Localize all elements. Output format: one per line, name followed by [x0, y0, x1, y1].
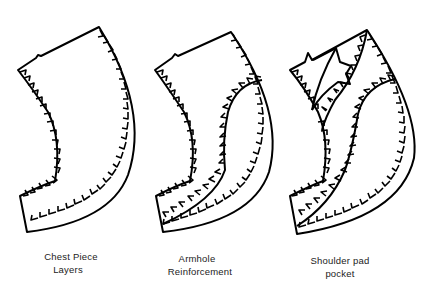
- shoulder-pad-label-line2: pocket: [302, 267, 378, 280]
- armhole-label: Armhole Reinforcement: [160, 252, 240, 278]
- shoulder-pad-label-line1: Shoulder pad: [302, 254, 378, 267]
- armhole-label-line2: Reinforcement: [160, 265, 240, 278]
- armhole-reinforcement-shape: [155, 32, 273, 232]
- armhole-label-line1: Armhole: [154, 252, 240, 265]
- chest-piece-label: Chest Piece Layers: [38, 250, 104, 276]
- chest-piece-label-line2: Layers: [32, 263, 104, 276]
- chest-piece-shape: [18, 27, 135, 232]
- chest-piece-label-line1: Chest Piece: [38, 250, 104, 263]
- shoulder-pad-pocket-shape: [290, 30, 415, 234]
- shoulder-pad-label: Shoulder pad pocket: [302, 254, 378, 280]
